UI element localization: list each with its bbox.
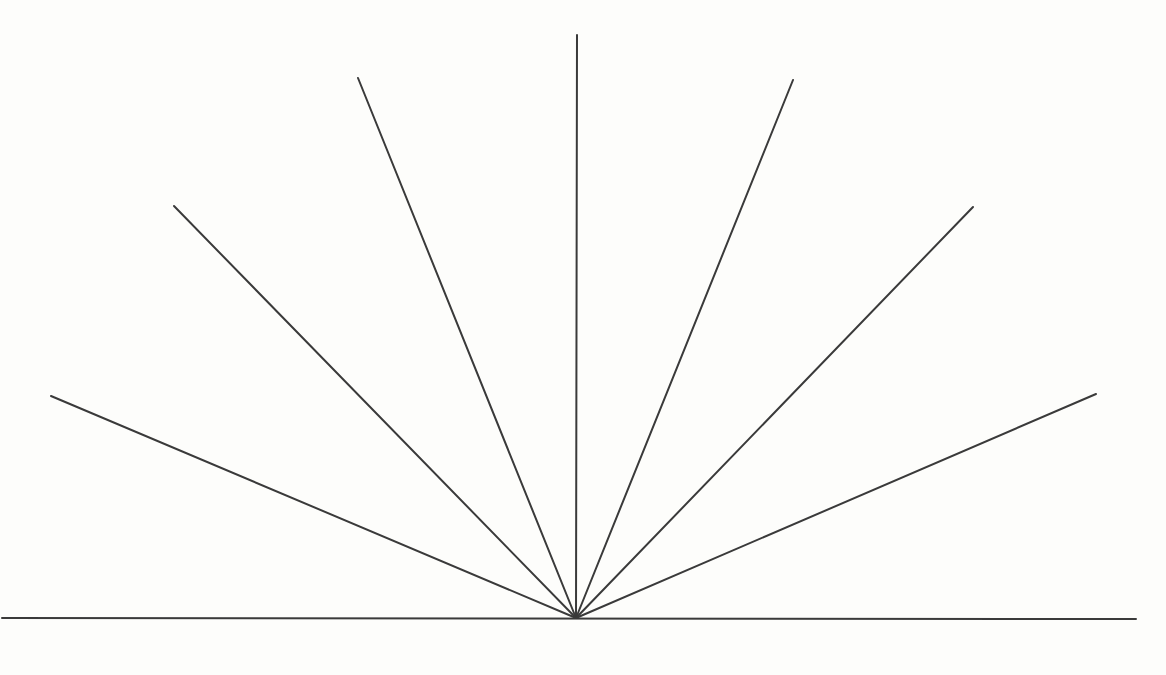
- fan-of-rays-diagram: [0, 0, 1166, 675]
- ray-left-68deg: [358, 78, 576, 618]
- baseline: [2, 618, 1136, 619]
- ray-right-46deg: [576, 207, 973, 618]
- ray-right-68deg: [576, 80, 793, 618]
- ray-group: [2, 35, 1136, 619]
- ray-vertical-90deg: [576, 35, 577, 618]
- ray-left-23deg: [51, 396, 576, 618]
- ray-right-23deg: [576, 394, 1096, 618]
- scanned-page: [0, 0, 1166, 675]
- ray-left-46deg: [174, 206, 576, 618]
